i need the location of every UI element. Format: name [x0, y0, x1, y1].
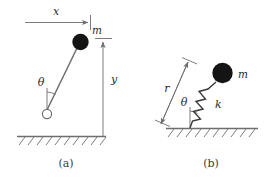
pendulum-rod [47, 44, 79, 110]
spring-coil [190, 82, 216, 128]
mass-label-a: m [92, 24, 102, 36]
y-label: y [110, 73, 118, 86]
r-dimension-top-tick [182, 58, 197, 65]
figure-canvas: x y θ m [0, 0, 270, 179]
theta-label-a: θ [38, 76, 45, 89]
angle-arc-a [47, 92, 56, 95]
ground-b [166, 129, 258, 138]
ground-a [17, 137, 106, 146]
ground-hatching-b [168, 129, 255, 137]
r-label: r [164, 82, 170, 95]
r-dimension-line [155, 58, 197, 127]
spring-constant-label: k [215, 98, 222, 111]
panel-a: x y θ m [17, 5, 118, 170]
mass-label-b: m [238, 68, 248, 80]
x-label: x [53, 5, 60, 18]
physics-figure: x y θ m [0, 0, 270, 179]
panel-b: r θ k m [155, 58, 258, 171]
theta-label-b: θ [181, 96, 188, 109]
caption-b: (b) [203, 157, 219, 170]
mass-ball-a [72, 34, 88, 50]
mass-ball-b [212, 63, 232, 83]
caption-a: (a) [58, 157, 73, 170]
ground-hatching-a [19, 137, 106, 145]
y-dimension-line [95, 39, 112, 137]
pivot-point [42, 109, 51, 118]
